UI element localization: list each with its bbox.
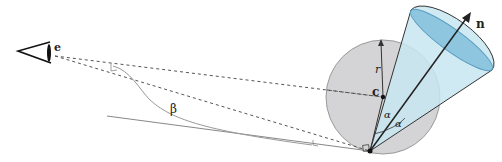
eye-icon: [18, 42, 51, 63]
label-alpha-left: α: [384, 109, 391, 120]
label-beta: β: [170, 102, 177, 116]
beta-arc: [113, 66, 312, 145]
center-point: [381, 95, 385, 99]
label-e: e: [54, 41, 61, 54]
surface-point: [368, 149, 373, 154]
sight-line-tangent: [55, 56, 370, 151]
diagram-canvas: e c r n β α α: [0, 0, 502, 162]
label-c: c: [372, 85, 379, 99]
label-alpha-right: α: [395, 118, 402, 129]
label-r: r: [375, 63, 381, 76]
label-n: n: [476, 17, 485, 31]
right-angle-mark-ground: [313, 140, 318, 146]
